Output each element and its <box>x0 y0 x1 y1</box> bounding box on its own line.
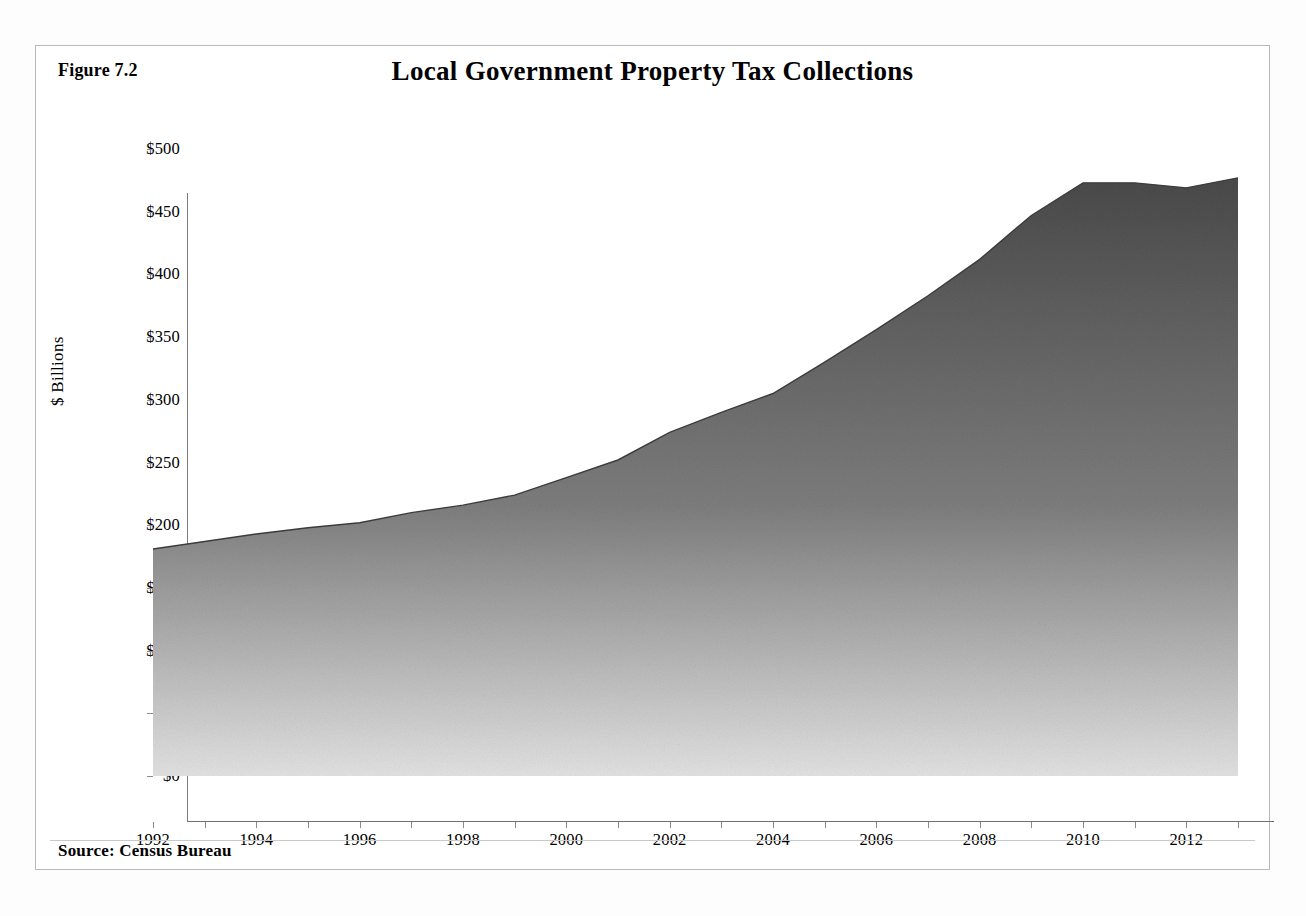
x-tick-mark <box>463 822 464 828</box>
figure-frame: Figure 7.2 Local Government Property Tax… <box>35 45 1270 870</box>
x-axis-line <box>187 821 1274 822</box>
x-tick-mark <box>566 822 567 828</box>
y-axis-title: $ Billions <box>48 336 68 406</box>
x-tick-mark <box>825 822 826 828</box>
x-tick-mark <box>1238 822 1239 828</box>
plot-area <box>153 149 1238 776</box>
x-tick-mark <box>721 822 722 828</box>
x-tick-mark <box>411 822 412 828</box>
x-tick-mark <box>308 822 309 828</box>
x-tick-mark <box>928 822 929 828</box>
x-tick-mark <box>360 822 361 828</box>
x-tick-mark <box>515 822 516 828</box>
chart-title: Local Government Property Tax Collection… <box>36 56 1269 87</box>
y-tick-mark <box>147 776 153 777</box>
x-tick-mark <box>1186 822 1187 828</box>
x-tick-mark <box>980 822 981 828</box>
x-tick-mark <box>205 822 206 828</box>
x-tick-mark <box>773 822 774 828</box>
x-tick-mark <box>256 822 257 828</box>
x-tick-mark <box>670 822 671 828</box>
x-tick-mark <box>1135 822 1136 828</box>
x-tick-mark <box>876 822 877 828</box>
x-tick-mark <box>618 822 619 828</box>
area-series-plot <box>153 149 1238 776</box>
area-fill <box>153 178 1238 776</box>
x-tick-mark <box>153 822 154 828</box>
x-tick-mark <box>1083 822 1084 828</box>
x-tick-mark <box>1031 822 1032 828</box>
source-note: Source: Census Bureau <box>58 841 232 861</box>
